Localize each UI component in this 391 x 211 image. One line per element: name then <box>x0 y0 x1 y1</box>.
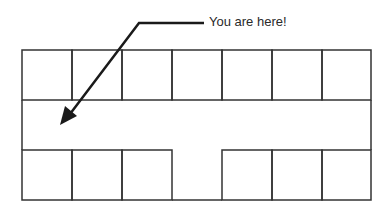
room <box>72 150 122 200</box>
room <box>222 150 272 200</box>
room <box>272 150 322 200</box>
room <box>72 50 122 100</box>
room <box>222 50 272 100</box>
room <box>122 150 172 200</box>
bottom-row-rooms <box>22 150 371 200</box>
room <box>172 50 222 100</box>
room <box>22 50 72 100</box>
room <box>322 50 371 100</box>
floor-plan <box>0 0 391 211</box>
room <box>272 50 322 100</box>
you-are-here-arrow-icon <box>60 23 204 125</box>
room <box>22 150 72 200</box>
room <box>122 50 172 100</box>
top-row-rooms <box>22 50 371 100</box>
room <box>322 150 371 200</box>
you-are-here-label: You are here! <box>209 14 287 29</box>
